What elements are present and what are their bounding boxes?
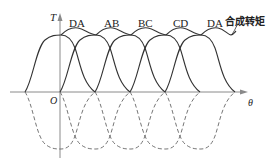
dashed-curve-2 <box>60 92 130 149</box>
theta-axis-arrow-icon <box>240 90 248 95</box>
solid-curve-5 <box>165 35 235 92</box>
solid-curve-3 <box>95 35 165 92</box>
phase-label-da-2: DA <box>207 17 223 29</box>
phase-label-bc: BC <box>138 17 153 29</box>
solid-torque-curves <box>25 24 238 92</box>
t-axis-label: T <box>50 11 57 23</box>
torque-angle-diagram: T θ O DA AB BC CD DA 合成转矩 <box>0 0 274 165</box>
phase-label-da-1: DA <box>69 17 85 29</box>
dashed-curve-3 <box>95 92 165 149</box>
solid-curve-4 <box>130 35 200 92</box>
resultant-torque-label: 合成转矩 <box>224 15 265 27</box>
solid-curve-2 <box>60 35 130 92</box>
dashed-curve-4 <box>130 92 200 149</box>
phase-label-cd: CD <box>173 17 188 29</box>
theta-axis-label: θ <box>248 97 253 108</box>
t-axis-arrow-icon <box>58 13 63 21</box>
origin-label: O <box>50 95 57 106</box>
dashed-curve-5 <box>165 92 235 149</box>
phase-label-ab: AB <box>104 17 119 29</box>
